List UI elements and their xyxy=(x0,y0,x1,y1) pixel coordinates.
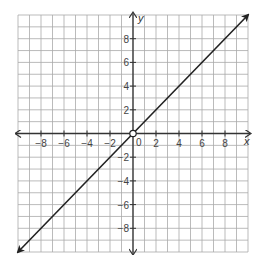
y-tick-label: 2 xyxy=(123,105,129,116)
x-tick-label: −4 xyxy=(81,138,93,149)
y-axis-label: y xyxy=(137,12,145,24)
coordinate-plane: −8−6−4−2024688642−2−4−6−8xy xyxy=(0,0,263,270)
x-tick-label: 4 xyxy=(176,138,182,149)
x-tick-label: −8 xyxy=(35,138,47,149)
y-tick-label: −6 xyxy=(118,200,130,211)
x-tick-label: 6 xyxy=(199,138,205,149)
y-tick-label: −4 xyxy=(118,176,130,187)
y-tick-label: −8 xyxy=(118,223,130,234)
x-tick-label: −6 xyxy=(58,138,70,149)
x-tick-label: 8 xyxy=(222,138,228,149)
open-circle-point xyxy=(130,130,136,136)
x-tick-label: 2 xyxy=(153,138,159,149)
y-tick-label: 8 xyxy=(123,34,129,45)
y-tick-label: 6 xyxy=(123,57,129,68)
x-tick-label: 0 xyxy=(136,137,142,148)
x-tick-label: −2 xyxy=(104,138,116,149)
y-tick-label: −2 xyxy=(118,152,130,163)
x-axis-label: x xyxy=(243,135,250,147)
y-tick-label: 4 xyxy=(123,81,129,92)
